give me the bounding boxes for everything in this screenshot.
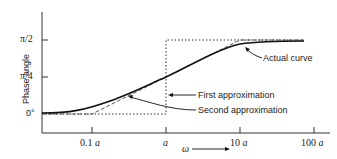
- x-tick-var: a: [243, 137, 248, 148]
- x-tick-0-1a-num: 0.1: [80, 137, 93, 148]
- y-tick-pi-quarter: π/4: [20, 70, 33, 81]
- x-tick-100a-num: 100: [301, 137, 316, 148]
- second-approximation-line: [42, 40, 304, 114]
- y-tick-zero: 0°: [26, 108, 35, 118]
- y-tick-pi-half: π/2: [20, 33, 33, 44]
- first-approximation-line: [42, 40, 304, 114]
- x-tick-10a-num: 10: [230, 137, 240, 148]
- x-tick-100a: 100 a: [301, 137, 324, 148]
- actual-curve-line: [42, 41, 304, 113]
- annotation-second-approximation: Second approximation: [198, 105, 288, 115]
- x-tick-0-1a: 0.1 a: [80, 137, 100, 148]
- x-tick-a: a: [163, 137, 168, 148]
- annotation-first-approximation: First approximation: [198, 90, 275, 100]
- x-tick-10a: 10 a: [230, 137, 248, 148]
- chart-canvas: [0, 0, 337, 159]
- x-tick-var: a: [95, 137, 100, 148]
- x-axis-label-omega: ω: [182, 143, 189, 154]
- x-tick-var: a: [319, 137, 324, 148]
- annotation-actual-curve: Actual curve: [263, 53, 313, 63]
